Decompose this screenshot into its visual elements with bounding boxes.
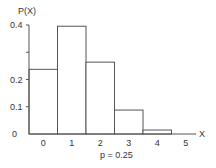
x-tick-label: 4 xyxy=(155,138,160,148)
bar-1 xyxy=(58,26,87,134)
bar-2 xyxy=(86,62,115,134)
y-axis-label: P(X) xyxy=(18,6,36,16)
y-tick-label: 0.1 xyxy=(10,102,23,112)
bar-0 xyxy=(29,69,58,134)
histogram-plot: 00.10.20.4 012345 P(X) X p = 0.25 xyxy=(0,0,216,168)
y-tick-label: 0.2 xyxy=(10,75,23,85)
y-ticks: 00.10.20.4 xyxy=(10,20,29,139)
x-ticks: 012345 xyxy=(41,138,189,148)
x-tick-label: 5 xyxy=(183,138,188,148)
x-tick-label: 3 xyxy=(126,138,131,148)
bar-3 xyxy=(115,110,144,134)
x-tick-label: 0 xyxy=(41,138,46,148)
parameter-annotation: p = 0.25 xyxy=(100,150,133,160)
bar-4 xyxy=(143,130,172,134)
x-tick-label: 2 xyxy=(98,138,103,148)
x-tick-label: 1 xyxy=(69,138,74,148)
probability-histogram: 00.10.20.4 012345 P(X) X p = 0.25 xyxy=(0,0,216,168)
y-tick-label: 0.4 xyxy=(10,20,23,30)
y-tick-label: 0 xyxy=(12,129,17,139)
x-axis-label: X xyxy=(199,129,205,139)
bars-group xyxy=(29,26,172,134)
